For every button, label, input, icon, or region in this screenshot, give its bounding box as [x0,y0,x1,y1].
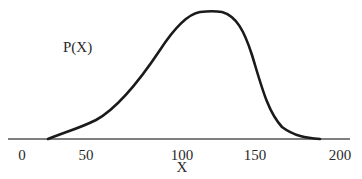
density-curve [48,11,320,139]
y-axis-label: P(X) [63,40,92,55]
x-tick-150: 150 [244,148,267,163]
x-tick-50: 50 [79,148,94,163]
x-axis-label: X [177,160,188,175]
probability-density-chart: P(X) 0 50 100 150 200 X [0,0,362,179]
x-tick-200: 200 [329,148,352,163]
x-tick-0: 0 [18,148,26,163]
